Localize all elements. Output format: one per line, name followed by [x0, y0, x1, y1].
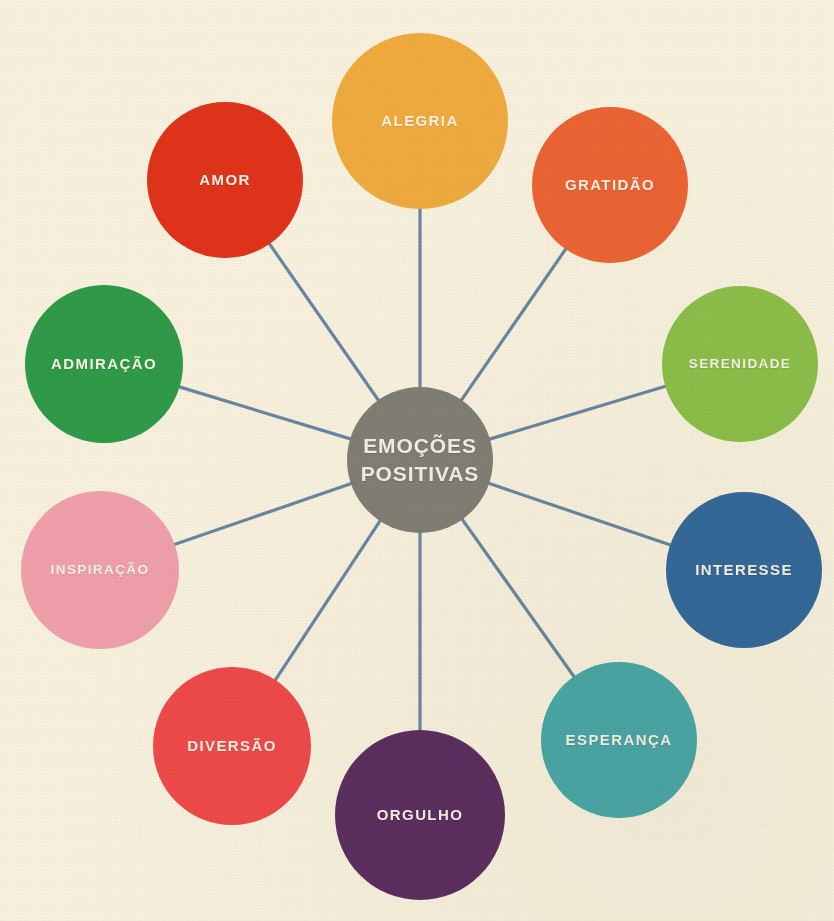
connector-line-inspiração	[173, 483, 353, 545]
emotion-node-label: AMOR	[199, 170, 250, 189]
connector-line-serenidade	[488, 386, 667, 440]
emotion-node-admiracao[interactable]: ADMIRAÇÃO	[25, 285, 183, 443]
connector-line-admiração	[178, 386, 352, 439]
emotion-node-serenidade[interactable]: SERENIDADE	[662, 286, 818, 442]
hub-node-emocoes-positivas[interactable]: EMOÇÕES POSITIVAS	[347, 387, 493, 533]
emotion-node-label: INTERESSE	[695, 560, 793, 579]
connector-line-gratidão	[460, 248, 566, 402]
connector-line-diversão	[274, 519, 381, 681]
emotion-node-label: ALEGRIA	[381, 111, 458, 130]
connector-line-esperança	[461, 518, 575, 678]
emotion-node-amor[interactable]: AMOR	[147, 102, 303, 258]
emotion-node-label: SERENIDADE	[689, 355, 792, 372]
emotion-node-label: ORGULHO	[377, 805, 463, 824]
emotion-node-gratidao[interactable]: GRATIDÃO	[532, 107, 688, 263]
emotion-node-label: ADMIRAÇÃO	[51, 354, 157, 373]
emotion-node-label: GRATIDÃO	[565, 175, 655, 194]
connector-line-interesse	[487, 483, 672, 546]
diagram-canvas: EMOÇÕES POSITIVAS ALEGRIAGRATIDÃOSERENID…	[0, 0, 834, 921]
emotion-node-diversao[interactable]: DIVERSÃO	[153, 667, 311, 825]
emotion-node-orgulho[interactable]: ORGULHO	[335, 730, 505, 900]
emotion-node-interesse[interactable]: INTERESSE	[666, 492, 822, 648]
emotion-node-alegria[interactable]: ALEGRIA	[332, 33, 508, 209]
emotion-node-label: DIVERSÃO	[187, 736, 277, 755]
hub-label-line-1: EMOÇÕES	[363, 432, 477, 460]
connector-line-amor	[268, 242, 379, 401]
emotion-node-inspiracao[interactable]: INSPIRAÇÃO	[21, 491, 179, 649]
emotion-node-label: INSPIRAÇÃO	[51, 561, 150, 578]
emotion-node-label: ESPERANÇA	[566, 730, 673, 749]
hub-label-line-2: POSITIVAS	[361, 460, 480, 488]
emotion-node-esperanca[interactable]: ESPERANÇA	[541, 662, 697, 818]
